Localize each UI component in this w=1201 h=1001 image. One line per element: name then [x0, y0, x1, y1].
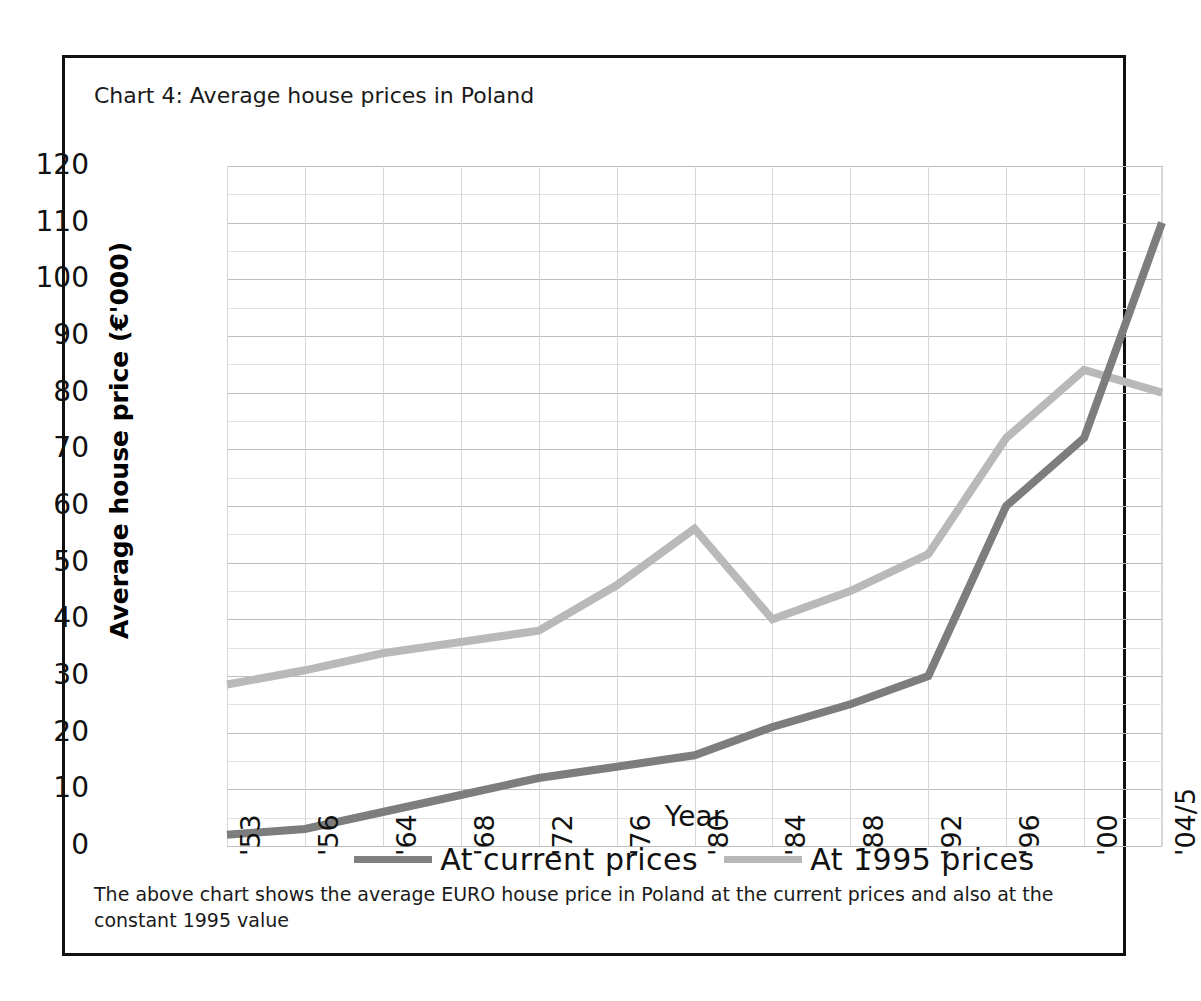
plot-area [227, 166, 1162, 846]
y-tick-label: 10 [0, 774, 89, 802]
y-tick-label: 60 [0, 491, 89, 519]
vertical-gridline [1162, 166, 1163, 846]
legend-item-current-prices[interactable]: At current prices [354, 842, 698, 877]
series-line-1995-prices [227, 370, 1162, 685]
legend-item-1995-prices[interactable]: At 1995 prices [724, 842, 1034, 877]
x-tick-label: '04/5 [1172, 788, 1199, 856]
y-axis-title: Average house price (€'000) [105, 211, 134, 671]
y-tick-label: 90 [0, 321, 89, 349]
y-tick-label: 70 [0, 434, 89, 462]
chart-frame: Chart 4: Average house prices in Poland … [62, 55, 1126, 956]
legend-swatch [354, 856, 432, 863]
y-tick-label: 40 [0, 604, 89, 632]
y-tick-label: 50 [0, 548, 89, 576]
page-title: Chart 4: Average house prices in Poland [94, 83, 534, 108]
x-axis-title: Year [227, 800, 1162, 833]
y-tick-label: 120 [0, 151, 89, 179]
series-lines [227, 166, 1162, 846]
legend-label: At 1995 prices [810, 842, 1034, 877]
y-tick-label: 80 [0, 378, 89, 406]
y-tick-label: 0 [0, 831, 89, 859]
legend-swatch [724, 856, 802, 863]
legend-label: At current prices [440, 842, 698, 877]
y-tick-label: 20 [0, 718, 89, 746]
chart-legend: At current pricesAt 1995 prices [227, 842, 1162, 877]
y-tick-label: 30 [0, 661, 89, 689]
y-tick-label: 100 [0, 264, 89, 292]
chart-caption: The above chart shows the average EURO h… [94, 882, 1089, 933]
y-tick-label: 110 [0, 208, 89, 236]
